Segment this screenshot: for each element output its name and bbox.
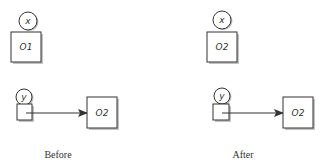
variable-y: y (16, 89, 34, 106)
diagram-canvas: x O1 y O2 Before x (0, 0, 324, 165)
panel-before: x O1 y O2 Before (11, 12, 119, 160)
variable-x: x (19, 12, 39, 31)
variable-y-label: y (218, 91, 225, 101)
object-box-o2-top: O2 (207, 32, 239, 64)
object-box-o2: O2 (283, 97, 315, 130)
variable-y: y (214, 88, 232, 105)
object-label-o2: O2 (96, 108, 109, 118)
variable-x-label: x (218, 15, 225, 25)
panel-after: x O2 y O2 After (207, 11, 315, 160)
variable-y-label: y (20, 92, 27, 102)
object-label-o2-top: O2 (216, 42, 229, 52)
object-label-o2: O2 (292, 108, 305, 118)
caption-before: Before (44, 149, 72, 160)
object-box-o1: O1 (11, 32, 43, 64)
object-box-o2: O2 (87, 97, 119, 130)
object-label-o1: O1 (20, 42, 33, 52)
caption-after: After (232, 149, 254, 160)
variable-x: x (213, 11, 233, 30)
variable-x-label: x (24, 16, 31, 26)
